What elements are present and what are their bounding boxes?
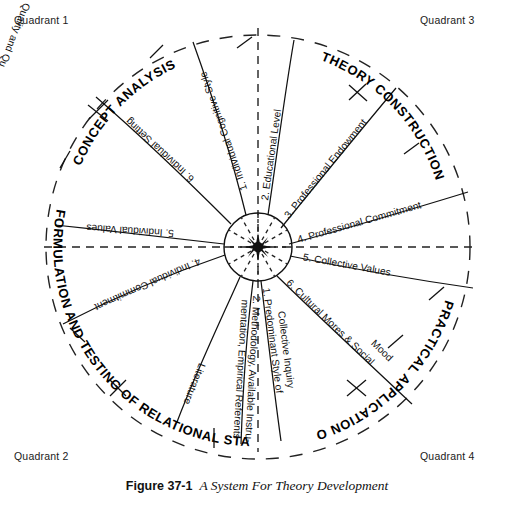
sector-label-formulation-testing: FORMULATION AND TESTING OF RELATIONAL ST… xyxy=(0,0,251,449)
theory-development-diagram: CONCEPT ANALYSIS THEORY CONSTRUCTION PRA… xyxy=(0,0,514,513)
quadrant-label-4: Quadrant 4 xyxy=(420,450,475,462)
item-label-quality-quantity-literature: Literature xyxy=(181,362,207,406)
sector-label-theory-construction: THEORY CONSTRUCTION xyxy=(319,49,447,182)
figure-container: CONCEPT ANALYSIS THEORY CONSTRUCTION PRA… xyxy=(0,0,514,513)
item-label-cultural-mores-1: 6. Cultural Mores & Social xyxy=(284,277,376,367)
item-label-individual-cognitive-style: 1. Individual Cognitive Style xyxy=(197,70,249,192)
quadrant-label-3: Quadrant 3 xyxy=(420,14,475,26)
figure-title: A System For Theory Development xyxy=(192,478,388,493)
item-label-professional-commitment: 4. Professional Commitment xyxy=(296,199,422,245)
quadrant-label-2: Quadrant 2 xyxy=(14,450,69,462)
figure-number: Figure 37-1 xyxy=(126,479,193,493)
item-label-individual-setting: 6. Individual Setting xyxy=(123,116,196,185)
item-label-educational-level: 2. Educational Level xyxy=(259,109,283,202)
item-label-individual-values: 5. Individual Values xyxy=(86,222,174,239)
center-starburst xyxy=(244,233,272,261)
figure-caption: Figure 37-1A System For Theory Developme… xyxy=(0,478,514,494)
quadrant-label-1: Quadrant 1 xyxy=(14,14,69,26)
item-label-collective-values: 5. Collective Values xyxy=(302,251,391,277)
item-label-professional-endowment: 3. Professional Endowment xyxy=(282,117,369,220)
item-label-individual-commitment: 4. Individual Commitment xyxy=(93,256,203,313)
